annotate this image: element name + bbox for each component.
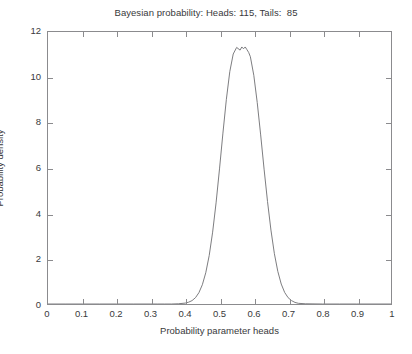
- x-tick-mark: [290, 299, 291, 304]
- y-tick-label: 0: [0, 299, 41, 310]
- x-tick-mark: [83, 299, 84, 304]
- x-tick-mark-top: [290, 32, 291, 37]
- x-tick-mark-top: [152, 32, 153, 37]
- y-tick-mark: [48, 169, 53, 170]
- y-axis-label: Probability density: [0, 98, 6, 238]
- y-tick-label: 6: [0, 162, 41, 173]
- y-tick-label: 4: [0, 208, 41, 219]
- x-tick-mark: [324, 299, 325, 304]
- y-tick-mark-right: [386, 169, 391, 170]
- x-axis-label: Probability parameter heads: [47, 325, 392, 337]
- x-tick-mark-top: [221, 32, 222, 37]
- figure-canvas: Bayesian probability: Heads: 115, Tails:…: [0, 0, 412, 354]
- y-tick-label: 2: [0, 253, 41, 264]
- curve-polyline: [48, 47, 391, 304]
- x-tick-mark: [117, 299, 118, 304]
- x-tick-mark-top: [117, 32, 118, 37]
- x-tick-mark: [255, 299, 256, 304]
- y-tick-label: 8: [0, 116, 41, 127]
- plot-area: [47, 31, 392, 305]
- x-tick-mark: [359, 299, 360, 304]
- x-tick-mark-top: [255, 32, 256, 37]
- x-tick-mark: [186, 299, 187, 304]
- x-tick-mark-top: [359, 32, 360, 37]
- x-tick-mark-top: [186, 32, 187, 37]
- y-tick-mark-right: [386, 215, 391, 216]
- y-tick-mark-right: [386, 78, 391, 79]
- x-tick-mark: [152, 299, 153, 304]
- y-tick-mark: [48, 123, 53, 124]
- chart-title: Bayesian probability: Heads: 115, Tails:…: [0, 7, 412, 19]
- posterior-density-curve: [48, 32, 391, 304]
- x-tick-mark: [221, 299, 222, 304]
- y-tick-label: 12: [0, 25, 41, 36]
- y-tick-mark: [48, 78, 53, 79]
- y-tick-mark: [48, 215, 53, 216]
- y-tick-mark: [48, 260, 53, 261]
- x-tick-mark-top: [324, 32, 325, 37]
- y-tick-label: 10: [0, 71, 41, 82]
- x-tick-mark-top: [83, 32, 84, 37]
- y-tick-mark-right: [386, 123, 391, 124]
- x-tick-label: 1: [372, 308, 412, 319]
- y-tick-mark-right: [386, 260, 391, 261]
